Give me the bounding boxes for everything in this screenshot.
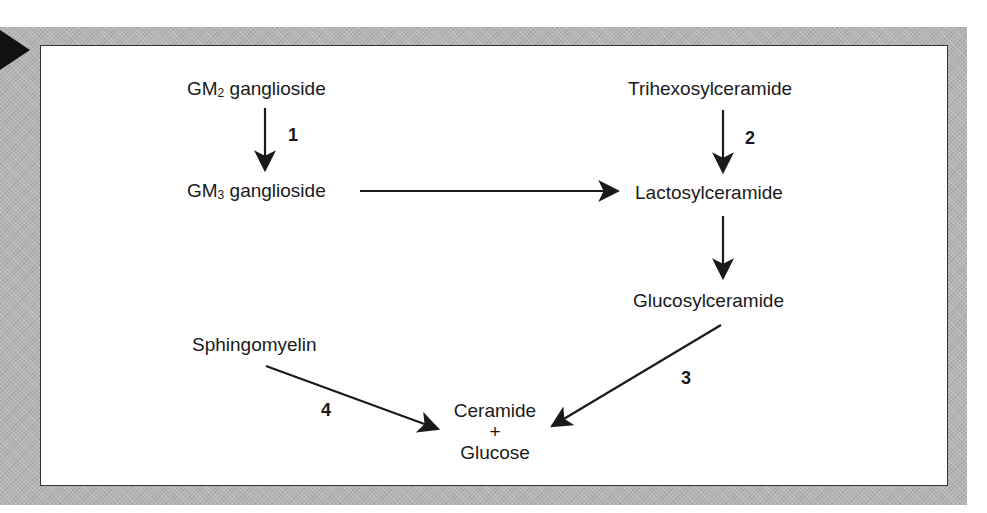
step-label-3: 3 xyxy=(681,368,691,389)
node-gm3-ganglioside: GM3 ganglioside xyxy=(187,180,326,202)
product-glucose: Glucose xyxy=(440,442,550,463)
node-glucosylceramide: Glucosylceramide xyxy=(633,290,784,312)
node-trihexosylceramide: Trihexosylceramide xyxy=(628,78,792,100)
node-gm2-ganglioside: GM2 ganglioside xyxy=(187,78,326,100)
node-lactosylceramide: Lactosylceramide xyxy=(635,182,783,204)
node-sphingomyelin: Sphingomyelin xyxy=(192,334,317,356)
step-label-2: 2 xyxy=(745,128,755,149)
step-label-1: 1 xyxy=(288,125,298,146)
step-label-4: 4 xyxy=(321,400,331,421)
node-ceramide-glucose: Ceramide + Glucose xyxy=(440,400,550,463)
product-ceramide: Ceramide xyxy=(440,400,550,421)
arrow-glucosyl-to-ceramide xyxy=(552,325,721,426)
arrow-sphingomyelin-to-ceramide xyxy=(266,366,438,429)
product-plus: + xyxy=(440,421,550,442)
